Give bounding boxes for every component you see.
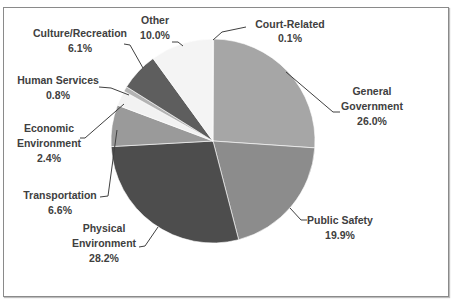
- label-court-related-value: 0.1%: [278, 32, 303, 44]
- label-other-name: Other: [141, 14, 169, 26]
- label-economic-environment-value: 2.4%: [37, 152, 62, 164]
- label-general-government-value: 26.0%: [357, 115, 387, 127]
- label-culture-recreation-name: Culture/Recreation: [33, 27, 127, 39]
- leader-culture-recreation: [124, 44, 143, 68]
- label-economic-environment-name: Economic: [24, 122, 74, 134]
- pie-slice-general-government: [213, 39, 315, 148]
- label-human-services-value: 0.8%: [46, 89, 71, 101]
- label-physical-environment-name: Physical: [83, 222, 126, 234]
- leader-physical-environment: [139, 227, 158, 247]
- label-general-government-name2: Government: [341, 100, 403, 112]
- leader-public-safety: [290, 208, 307, 220]
- label-physical-environment-value: 28.2%: [89, 252, 119, 264]
- label-public-safety-value: 19.9%: [325, 229, 355, 241]
- label-public-safety-name: Public Safety: [307, 214, 373, 226]
- pie-slices: [111, 39, 315, 243]
- label-economic-environment-name2: Environment: [17, 137, 82, 149]
- label-court-related-name: Court-Related: [255, 18, 324, 30]
- label-other-value: 10.0%: [140, 29, 170, 41]
- label-physical-environment-name2: Environment: [72, 237, 137, 249]
- label-general-government-name: General: [352, 85, 391, 97]
- label-transportation-value: 6.6%: [48, 204, 73, 216]
- pie-chart: Court-Related 0.1% General Government 26…: [0, 0, 451, 305]
- label-transportation-name: Transportation: [23, 189, 97, 201]
- leader-court-related: [213, 27, 246, 40]
- label-culture-recreation-value: 6.1%: [68, 42, 93, 54]
- label-human-services-name: Human Services: [17, 74, 99, 86]
